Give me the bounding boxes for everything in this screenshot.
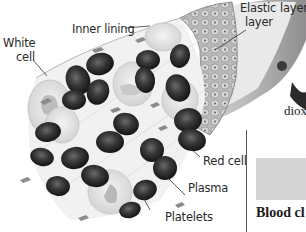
label-elastic-layer-line1: Elastic (240, 2, 276, 15)
placeholder-box (256, 158, 306, 200)
label-red-cell: Red cell (203, 155, 247, 168)
label-white-cell-line1: White (3, 37, 35, 50)
label-inner-lining: Inner lining (72, 23, 135, 36)
caption-fragment: Blood cl (256, 205, 305, 221)
label-elastic-layer-line2: layer (245, 16, 273, 29)
label-plasma: Plasma (188, 182, 228, 195)
blood-vessel-diagram: Inner lining White cell Elastic layer la… (0, 0, 306, 232)
label-white-cell-line2: cell (16, 51, 35, 64)
column-divider (246, 130, 247, 232)
label-outer-layer-fragment: layer (280, 2, 306, 15)
side-text-fragment: diox (284, 103, 306, 119)
label-platelets: Platelets (165, 211, 213, 224)
